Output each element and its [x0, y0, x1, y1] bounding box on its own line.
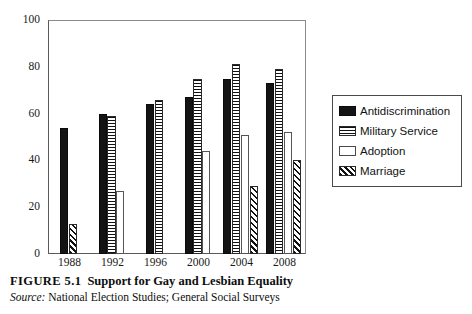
- bar-group-2008: [263, 20, 306, 254]
- figure-number: FIGURE 5.1: [10, 274, 81, 288]
- bar-2000-adoption: [202, 151, 210, 254]
- bar-2004-antidiscrimination: [223, 79, 231, 255]
- y-axis-tick-label: 0: [4, 248, 40, 260]
- bar-group-1996: [134, 20, 177, 254]
- figure-title: Support for Gay and Lesbian Equality: [87, 274, 293, 288]
- bar-1988-marriage: [69, 224, 77, 254]
- bar-2008-antidiscrimination: [266, 83, 274, 254]
- chart-plot-area: [48, 20, 306, 254]
- y-axis-tick-label: 20: [4, 201, 40, 213]
- bar-2004-adoption: [241, 135, 249, 254]
- bars-layer: [48, 20, 306, 254]
- bar-2008-marriage: [293, 160, 301, 254]
- source-text: National Election Studies; General Socia…: [48, 291, 280, 303]
- bar-1992-adoption: [116, 191, 124, 254]
- legend-item-military-service: Military Service: [339, 122, 456, 140]
- bar-1992-antidiscrimination: [99, 114, 107, 254]
- x-axis-tick-label-1988: 1988: [48, 256, 91, 269]
- x-axis-tick-label-2000: 2000: [177, 256, 220, 269]
- legend-label: Marriage: [360, 165, 405, 177]
- x-axis-tick-label-2008: 2008: [263, 256, 306, 269]
- bar-2008-adoption: [284, 132, 292, 254]
- legend-swatch-icon-antidiscrimination: [339, 106, 356, 116]
- legend-item-antidiscrimination: Antidiscrimination: [339, 102, 456, 120]
- bar-1996-military-service: [155, 100, 163, 254]
- bar-1988-antidiscrimination: [60, 128, 68, 254]
- legend-item-adoption: Adoption: [339, 142, 456, 160]
- y-axis-tick-label: 100: [4, 14, 40, 26]
- bar-2004-military-service: [232, 64, 240, 254]
- bar-1992-military-service: [107, 116, 115, 254]
- x-axis-labels: 198819921996200020042008: [48, 256, 306, 272]
- figure-container: 020406080100 198819921996200020042008 An…: [0, 0, 472, 314]
- bar-group-2004: [220, 20, 263, 254]
- legend-item-marriage: Marriage: [339, 162, 456, 180]
- bar-2008-military-service: [275, 69, 283, 254]
- x-axis-tick-label-1996: 1996: [134, 256, 177, 269]
- y-axis-tick-label: 40: [4, 154, 40, 166]
- y-axis-tick-label: 60: [4, 108, 40, 120]
- legend-label: Antidiscrimination: [360, 105, 450, 117]
- x-axis-tick-label-2004: 2004: [220, 256, 263, 269]
- bar-group-2000: [177, 20, 220, 254]
- legend-swatch-icon-marriage: [339, 166, 356, 176]
- figure-source: Source: National Election Studies; Gener…: [10, 290, 460, 305]
- legend-label: Military Service: [360, 125, 438, 137]
- bar-group-1988: [48, 20, 91, 254]
- bar-2000-antidiscrimination: [185, 97, 193, 254]
- figure-caption-block: FIGURE 5.1Support for Gay and Lesbian Eq…: [10, 273, 460, 305]
- bar-2004-marriage: [250, 186, 258, 254]
- figure-caption: FIGURE 5.1Support for Gay and Lesbian Eq…: [10, 273, 460, 289]
- legend-label: Adoption: [360, 145, 405, 157]
- x-axis-tick-label-1992: 1992: [91, 256, 134, 269]
- chart-legend: AntidiscriminationMilitary ServiceAdopti…: [332, 95, 462, 187]
- y-axis-tick-label: 80: [4, 61, 40, 73]
- bar-group-1992: [91, 20, 134, 254]
- source-label: Source:: [10, 291, 45, 303]
- legend-swatch-icon-adoption: [339, 146, 356, 156]
- bar-1996-antidiscrimination: [146, 104, 154, 254]
- bar-2000-military-service: [193, 79, 201, 255]
- legend-swatch-icon-military-service: [339, 126, 356, 136]
